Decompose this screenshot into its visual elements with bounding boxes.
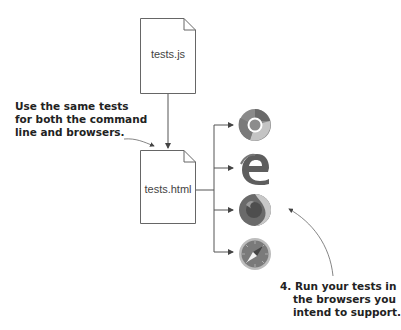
annotation-line: 4. Run your tests in (280, 280, 401, 293)
browser-firefox (238, 193, 272, 227)
safari-icon (238, 237, 272, 271)
annotation-line: for both the command (15, 113, 147, 126)
annotation-line: line and browsers. (15, 126, 147, 139)
file-label: tests.html (140, 183, 196, 195)
browser-safari (238, 237, 272, 271)
firefox-icon (238, 193, 272, 227)
annotation-line: Use the same tests (15, 100, 147, 113)
annotation-line: intend to support. (280, 306, 401, 319)
edge-icon (238, 151, 272, 185)
annotation-line: the browsers you (280, 293, 401, 306)
file-tests-js: tests.js (140, 18, 196, 94)
annotation-run-tests: 4. Run your tests in the browsers you in… (280, 280, 401, 319)
chrome-icon (238, 108, 272, 142)
file-label: tests.js (140, 48, 196, 60)
annotation-same-tests: Use the same tests for both the command … (15, 100, 147, 139)
browser-edge (238, 151, 272, 185)
browser-chrome (238, 108, 272, 142)
file-tests-html: tests.html (140, 150, 196, 224)
